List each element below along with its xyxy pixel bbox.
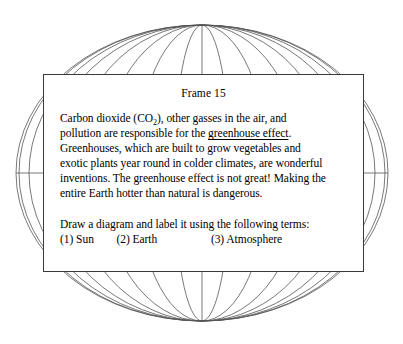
terms-gap-2 xyxy=(157,233,211,245)
body-line-2-part-a: pollution are responsible for the xyxy=(60,127,208,139)
term-atmosphere: (3) Atmosphere xyxy=(211,233,282,245)
frame-card: Frame 15 Carbon dioxide (CO2), other gas… xyxy=(43,74,364,272)
term-earth: (2) Earth xyxy=(116,233,157,245)
term-sun: (1) Sun xyxy=(60,233,94,245)
co2-subscript: 2 xyxy=(153,118,157,127)
body-line-1-part-a: Carbon dioxide (CO xyxy=(60,112,153,124)
paragraph-spacer xyxy=(60,202,353,217)
body-line-2-part-b: . xyxy=(288,127,291,139)
body-line-6: entire Earth hotter than natural is dang… xyxy=(60,186,353,201)
body-line-3: Greenhouses, which are built to grow veg… xyxy=(60,141,353,156)
body-line-1: Carbon dioxide (CO2), other gasses in th… xyxy=(60,111,353,126)
greenhouse-effect-term: greenhouse effect xyxy=(208,127,288,139)
terms-line: (1) Sun (2) Earth (3) Atmosphere xyxy=(60,232,353,247)
instruction-line: Draw a diagram and label it using the fo… xyxy=(60,217,353,232)
body-line-5: inventions. The greenhouse effect is not… xyxy=(60,171,353,186)
terms-gap-1 xyxy=(94,233,117,245)
body-line-2: pollution are responsible for the greenh… xyxy=(60,126,353,141)
body-line-1-part-b: ), other gasses in the air, and xyxy=(157,112,287,124)
frame-body-text: Carbon dioxide (CO2), other gasses in th… xyxy=(60,111,353,247)
body-line-4: exotic plants year round in colder clima… xyxy=(60,156,353,171)
frame-title: Frame 15 xyxy=(44,86,363,101)
